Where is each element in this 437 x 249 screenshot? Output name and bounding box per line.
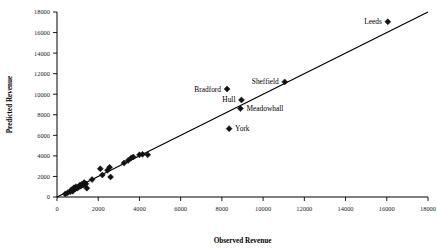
y-axis-tick-label: 6000 <box>37 132 50 139</box>
y-axis-tick-label: 18000 <box>34 8 50 15</box>
point-annotation-label: Hull <box>222 95 235 104</box>
chart-canvas: 0200040006000800010000120001400016000180… <box>0 0 437 249</box>
point-annotation-label: Leeds <box>364 17 382 26</box>
y-axis-title: Predicted Revenue <box>6 76 14 134</box>
x-axis-tick-label: 4000 <box>133 205 146 212</box>
x-axis-tick-label: 2000 <box>92 205 105 212</box>
y-axis-tick-label: 2000 <box>37 173 50 180</box>
data-point-marker <box>97 166 103 172</box>
x-axis-tick-label: 8000 <box>215 205 228 212</box>
x-axis-tick-label: 16000 <box>379 205 395 212</box>
point-annotation-label: Meadowhall <box>246 104 283 113</box>
y-axis-tick-label: 12000 <box>34 70 50 77</box>
data-point-marker <box>238 97 244 103</box>
data-point-marker <box>224 86 230 92</box>
point-annotation-label: York <box>235 124 250 133</box>
y-axis-tick-label: 8000 <box>37 111 50 118</box>
point-annotation-label: Sheffield <box>252 77 279 86</box>
data-point-marker <box>108 174 114 180</box>
y-axis-tick-label: 16000 <box>34 29 50 36</box>
y-axis-tick-label: 4000 <box>37 152 50 159</box>
data-point-marker <box>226 126 232 132</box>
x-axis-tick-label: 12000 <box>296 205 312 212</box>
y-axis-tick-label: 0 <box>47 193 50 200</box>
regression-line <box>57 12 428 197</box>
x-axis-tick-label: 10000 <box>255 205 271 212</box>
data-point-marker <box>385 19 391 25</box>
x-axis-tick-label: 0 <box>55 205 58 212</box>
x-axis-tick-label: 14000 <box>338 205 354 212</box>
x-axis-tick-label: 18000 <box>420 205 436 212</box>
x-axis-tick-label: 6000 <box>174 205 187 212</box>
data-point-marker <box>89 177 95 183</box>
y-axis-tick-label: 10000 <box>34 91 50 98</box>
scatter-chart: 0200040006000800010000120001400016000180… <box>0 0 437 249</box>
y-axis-tick-label: 14000 <box>34 50 50 57</box>
point-annotation-label: Bradford <box>194 85 221 94</box>
x-axis-title: Observed Revenue <box>214 237 272 245</box>
